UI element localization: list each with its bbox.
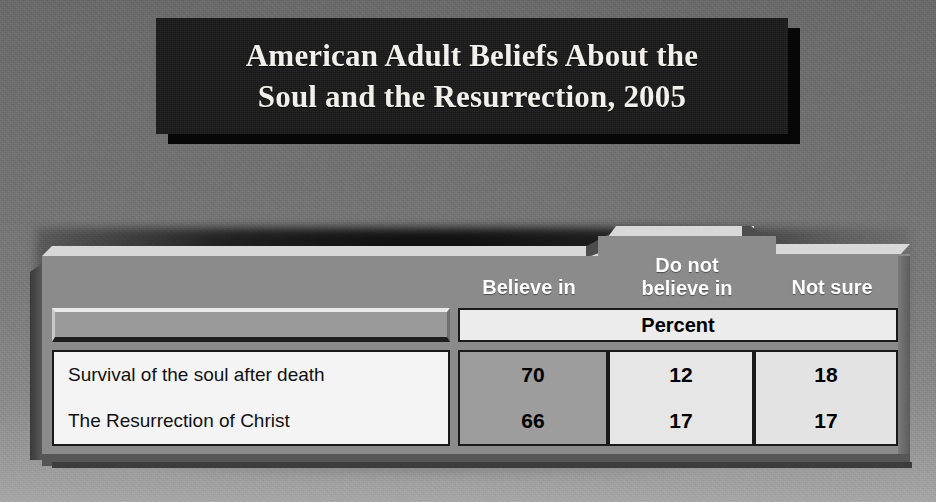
data-column-not-sure: 18 17 (754, 350, 898, 446)
cell-r1-c2: 17 (756, 398, 896, 444)
slide-canvas: American Adult Beliefs About the Soul an… (0, 0, 936, 502)
cell-r1-c0: 66 (460, 398, 606, 444)
spanner-header-percent: Percent (458, 308, 898, 342)
row-label-column: Survival of the soul after death The Res… (52, 350, 450, 446)
page-title: American Adult Beliefs About the Soul an… (246, 35, 698, 117)
cell-r0-c1: 12 (610, 352, 752, 398)
table-right-3d-face (898, 256, 910, 460)
data-column-believe-in: 70 66 (458, 350, 608, 446)
cell-r1-c1: 17 (610, 398, 752, 444)
source-caption (180, 488, 600, 502)
table-stub-box (52, 308, 450, 342)
header-segment-stub (42, 256, 448, 302)
row-label-0: Survival of the soul after death (54, 352, 448, 398)
column-header-not-sure: Not sure (754, 276, 910, 299)
row-label-1: The Resurrection of Christ (54, 398, 448, 444)
column-header-believe-in: Believe in (448, 276, 610, 299)
data-column-do-not-believe-in: 12 17 (608, 350, 754, 446)
table-bottom-3d-lip-shadow (52, 462, 912, 468)
column-header-do-not-believe-in: Do not believe in (598, 254, 776, 300)
cell-r0-c2: 18 (756, 352, 896, 398)
title-plaque: American Adult Beliefs About the Soul an… (156, 18, 788, 134)
data-table: Believe in Do not believe in Not sure Pe… (30, 222, 910, 474)
cell-r0-c0: 70 (460, 352, 606, 398)
